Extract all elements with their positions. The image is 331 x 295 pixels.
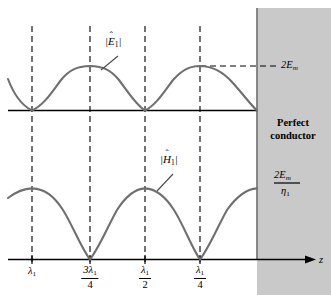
figure-canvas bbox=[0, 0, 331, 295]
h-field-bar-right: | bbox=[175, 153, 178, 165]
h-peak-amplitude-denominator: η1 bbox=[281, 186, 290, 198]
e-peak-subscript: m bbox=[293, 64, 298, 72]
z-axis-label: z bbox=[319, 255, 323, 266]
leader-line-h-field-label bbox=[157, 174, 173, 191]
e-peak-value: 2E bbox=[281, 59, 293, 70]
frac-half-den: 2 bbox=[139, 278, 151, 290]
e-field-curve-label: |ˆE1| bbox=[105, 36, 122, 49]
e-peak-amplitude-label: 2Em bbox=[281, 60, 298, 72]
standing-wave-figure: |ˆE1| |ˆH1| 2Em 2Em η1 Perfect conductor… bbox=[0, 0, 331, 295]
e-field-hat-wrap: ˆE bbox=[108, 36, 115, 47]
h-peak-den-subscript: 1 bbox=[286, 190, 290, 198]
tick-label-lambda-sub: 1 bbox=[33, 270, 37, 278]
frac-three-quarter-den: 4 bbox=[81, 278, 98, 290]
tick-label-half-lambda: λ1 2 bbox=[139, 264, 151, 290]
perfect-conductor-region bbox=[257, 8, 331, 295]
h-field-hat: ˆ bbox=[165, 150, 168, 159]
tick-label-three-quarter-lambda: 3λ1 4 bbox=[81, 264, 98, 290]
frac-three-quarter-num-sub: 1 bbox=[93, 269, 97, 277]
conductor-label-line1: Perfect bbox=[277, 117, 309, 128]
frac-half-num: λ1 bbox=[139, 264, 151, 278]
e-field-magnitude-curve bbox=[8, 66, 257, 111]
h-field-magnitude-curve bbox=[8, 188, 257, 259]
h-peak-num-subscript: m bbox=[286, 174, 291, 182]
frac-quarter-den: 4 bbox=[194, 278, 206, 290]
perfect-conductor-label: Perfect conductor bbox=[270, 116, 316, 142]
frac-three-quarter-num: 3λ1 bbox=[81, 264, 98, 278]
conductor-label-line2: conductor bbox=[270, 130, 316, 141]
frac-quarter-num: λ1 bbox=[194, 264, 206, 278]
leader-line-e-field-label bbox=[101, 56, 118, 70]
frac-three-quarter: 3λ1 4 bbox=[81, 264, 98, 290]
h-peak-amplitude-numerator: 2Em bbox=[274, 170, 291, 182]
frac-quarter: λ1 4 bbox=[194, 264, 206, 290]
h-peak-num-value: 2E bbox=[274, 169, 286, 180]
e-field-bar-right: | bbox=[119, 35, 122, 47]
frac-three-quarter-num-text: 3λ bbox=[83, 264, 93, 275]
h-field-curve-label: |ˆH1| bbox=[160, 154, 178, 167]
tick-label-quarter-lambda: λ1 4 bbox=[194, 264, 206, 290]
h-field-hat-wrap: ˆH bbox=[163, 154, 171, 165]
frac-half-num-sub: 1 bbox=[146, 269, 150, 277]
tick-label-lambda: λ1 bbox=[28, 266, 36, 278]
e-field-hat: ˆ bbox=[110, 32, 113, 41]
frac-quarter-num-sub: 1 bbox=[201, 269, 205, 277]
frac-half: λ1 2 bbox=[139, 264, 151, 290]
